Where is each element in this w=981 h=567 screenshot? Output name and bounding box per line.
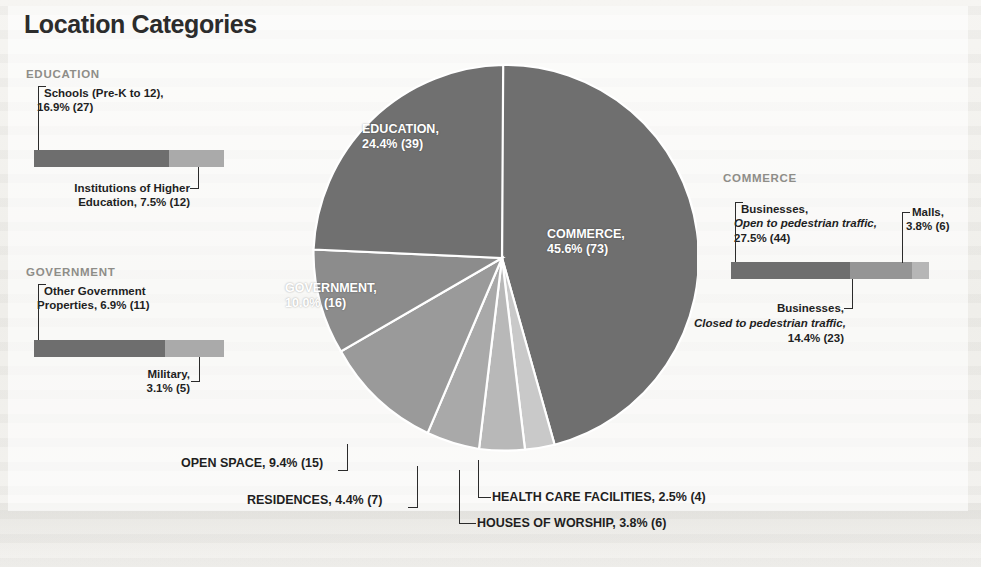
- commerce-item-3-name: Malls,: [912, 205, 944, 219]
- leader-line: [852, 279, 853, 308]
- leader-line: [190, 188, 199, 189]
- pie-label-commerce-line1: COMMERCE,: [547, 227, 625, 242]
- pie-label-open-space: OPEN SPACE, 9.4% (15): [181, 456, 323, 470]
- commerce-item-1-name: Businesses,: [741, 202, 808, 216]
- government-item-2-name: Military,: [110, 367, 190, 381]
- commerce-item-2-value: 14.4% (23): [694, 331, 844, 345]
- leader-line: [902, 212, 903, 263]
- leader-line: [38, 86, 39, 150]
- education-item-2-value: Education, 7.5% (12): [60, 195, 190, 209]
- commerce-segment-malls: [912, 262, 929, 279]
- pie-label-government-line2: 10.0% (16): [285, 296, 346, 311]
- leader-line: [459, 470, 460, 524]
- commerce-item-2-qualifier: Closed to pedestrian traffic,: [694, 316, 844, 330]
- leader-line: [347, 444, 348, 471]
- government-item-1-value: Properties, 6.9% (11): [37, 298, 150, 312]
- education-item-1-name: Schools (Pre-K to 12),: [44, 86, 164, 100]
- education-stacked-bar: [34, 150, 224, 167]
- pie-label-education-line1: EDUCATION,: [362, 122, 439, 137]
- leader-line: [478, 497, 491, 498]
- education-item-2-name: Institutions of Higher: [60, 181, 190, 195]
- pie-label-education-line2: 24.4% (39): [362, 137, 423, 152]
- group-heading-commerce: COMMERCE: [723, 172, 797, 184]
- leader-line: [902, 212, 910, 213]
- commerce-segment-closed-traffic: [850, 262, 912, 279]
- pie-slice-education: [314, 65, 504, 258]
- pie-label-government-line1: GOVERNMENT,: [285, 281, 377, 296]
- leader-line: [735, 202, 736, 262]
- chart-page: Location Categories EDUCATION Schools (P…: [0, 0, 981, 567]
- leader-line: [844, 308, 853, 309]
- leader-line: [408, 507, 417, 508]
- pie-label-health-care: HEALTH CARE FACILITIES, 2.5% (4): [492, 490, 706, 504]
- pie-label-houses-of-worship: HOUSES OF WORSHIP, 3.8% (6): [477, 516, 666, 530]
- leader-line: [478, 460, 479, 498]
- commerce-item-3-value: 3.8% (6): [906, 219, 949, 233]
- leader-line: [338, 470, 347, 471]
- pie-label-residences: RESIDENCES, 4.4% (7): [247, 493, 382, 507]
- pie-chart: EDUCATION, 24.4% (39) COMMERCE, 45.6% (7…: [307, 63, 697, 453]
- leader-line: [417, 466, 418, 508]
- group-heading-government: GOVERNMENT: [26, 266, 115, 278]
- education-item-1-value: 16.9% (27): [37, 100, 93, 114]
- government-item-1-name: Other Government: [44, 284, 146, 298]
- leader-line: [38, 284, 39, 340]
- government-item-2-value: 3.1% (5): [110, 381, 190, 395]
- commerce-item-1-value: 27.5% (44): [734, 231, 790, 245]
- government-segment-military: [165, 340, 224, 357]
- group-heading-education: EDUCATION: [26, 68, 100, 80]
- leader-line: [459, 523, 476, 524]
- education-segment-schools: [34, 150, 169, 167]
- commerce-item-2-name: Businesses,: [744, 301, 844, 315]
- commerce-segment-open-traffic: [731, 262, 850, 279]
- leader-line: [198, 167, 199, 188]
- education-segment-higher-ed: [169, 150, 224, 167]
- pie-label-commerce-line2: 45.6% (73): [547, 242, 608, 257]
- leader-line: [191, 381, 200, 382]
- page-title: Location Categories: [24, 10, 257, 39]
- commerce-stacked-bar: [731, 262, 929, 279]
- government-stacked-bar: [34, 340, 224, 357]
- commerce-item-1-qualifier: Open to pedestrian traffic,: [734, 216, 877, 230]
- government-segment-other-properties: [34, 340, 165, 357]
- leader-line: [199, 357, 200, 381]
- leader-line: [735, 202, 743, 203]
- leader-line: [38, 86, 46, 87]
- leader-line: [38, 284, 46, 285]
